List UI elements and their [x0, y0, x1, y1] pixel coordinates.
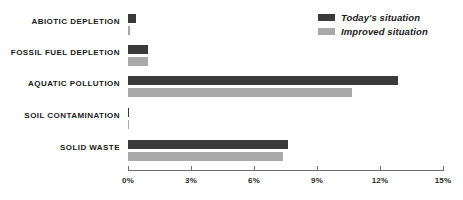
legend-label-improved-situation: Improved situation [341, 26, 428, 37]
bar [128, 57, 148, 66]
bar [128, 76, 398, 85]
bar [128, 108, 129, 117]
bar [128, 140, 288, 149]
x-axis-tick-label: 12% [372, 176, 389, 185]
x-axis-tick-label: 0% [122, 176, 134, 185]
bar [128, 88, 352, 97]
category-label-aquatic-pollution: AQUATIC POLLUTION [2, 79, 120, 89]
x-axis-tick-label: 15% [435, 176, 452, 185]
bar [128, 26, 130, 35]
bar-chart: ABIOTIC DEPLETION FOSSIL FUEL DEPLETION … [0, 0, 463, 200]
x-axis-tick [191, 166, 192, 171]
category-label-soil-contamination: SOIL CONTAMINATION [2, 111, 120, 121]
bar [128, 152, 283, 161]
category-label-column: ABIOTIC DEPLETION FOSSIL FUEL DEPLETION … [0, 0, 120, 165]
legend-label-todays-situation: Today's situation [341, 12, 420, 23]
legend-item-improved-situation[interactable]: Improved situation [318, 24, 428, 38]
x-axis-tick-label: 6% [248, 176, 260, 185]
bar [128, 45, 148, 54]
category-label-solid-waste: SOLID WASTE [2, 143, 120, 153]
category-label-abiotic-depletion: ABIOTIC DEPLETION [2, 17, 120, 27]
x-axis-line [128, 170, 443, 171]
legend: Today's situation Improved situation [318, 10, 428, 38]
x-axis-tick-label: 9% [311, 176, 323, 185]
x-axis-tick [443, 166, 444, 171]
bar [128, 14, 136, 23]
bar [128, 120, 129, 129]
category-label-fossil-fuel-depletion: FOSSIL FUEL DEPLETION [2, 48, 120, 58]
x-axis-tick [317, 166, 318, 171]
x-axis-tick [380, 166, 381, 171]
legend-swatch-icon-light [318, 28, 335, 35]
legend-item-todays-situation[interactable]: Today's situation [318, 10, 428, 24]
x-axis-tick [254, 166, 255, 171]
x-axis-tick [128, 166, 129, 171]
x-axis-tick-label: 3% [185, 176, 197, 185]
legend-swatch-icon-dark [318, 14, 335, 21]
